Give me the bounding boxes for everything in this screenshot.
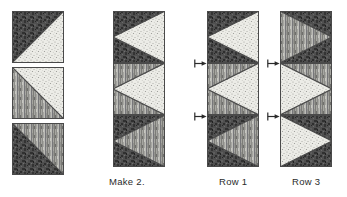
row3-square-1 — [280, 11, 332, 63]
make2-square-1 — [113, 11, 165, 63]
half-square-triangle-unit-2 — [12, 67, 64, 119]
row1-square-1 — [207, 11, 259, 63]
row1-square-2 — [207, 63, 259, 115]
caption-row3: Row 3 — [292, 176, 320, 187]
row3-square-2 — [280, 63, 332, 115]
row1-square-3 — [207, 115, 259, 167]
caption-row1: Row 1 — [219, 176, 247, 187]
seam-arrow-row1-top — [194, 59, 207, 68]
half-square-triangle-unit-1 — [12, 11, 64, 63]
caption-make2: Make 2. — [109, 176, 145, 187]
row3-square-3 — [280, 115, 332, 167]
half-square-triangle-unit-3 — [12, 123, 64, 175]
diagram-canvas: Make 2.Row 1Row 3 — [0, 0, 347, 197]
seam-arrow-row3-top — [267, 59, 280, 68]
make2-square-3 — [113, 115, 165, 167]
make2-square-2 — [113, 63, 165, 115]
seam-arrow-row3-bottom — [267, 112, 280, 121]
seam-arrow-row1-bottom — [194, 112, 207, 121]
